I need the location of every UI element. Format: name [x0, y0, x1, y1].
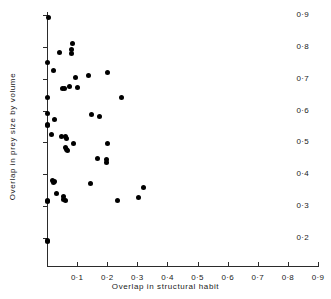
data-point [141, 185, 146, 190]
x-axis-tick-label: 0·6 [221, 273, 233, 282]
data-point [45, 123, 50, 128]
data-point [45, 60, 50, 65]
data-point [51, 180, 56, 185]
data-point [67, 84, 72, 89]
data-point [89, 112, 94, 117]
y-axis-tick [43, 47, 48, 48]
y-axis-tick-label: 0·8 [297, 42, 309, 51]
y-axis-title: Overlap in prey size by volume [8, 62, 17, 212]
y-axis-tick-label: 0·7 [297, 74, 309, 83]
x-axis-tick-label: 0·4 [161, 273, 173, 282]
x-axis-tick [167, 262, 168, 267]
data-point [45, 95, 50, 100]
data-point [97, 114, 102, 119]
data-point [52, 117, 57, 122]
data-point [86, 73, 91, 78]
data-point [49, 132, 54, 137]
y-axis-tick-label: 0·5 [297, 137, 309, 146]
x-axis-tick [198, 262, 199, 267]
x-axis-tick [228, 262, 229, 267]
data-point [65, 148, 70, 153]
y-axis-tick-label: 0·9 [297, 10, 309, 19]
data-point [57, 50, 62, 55]
y-axis-tick [43, 174, 48, 175]
data-point [88, 181, 93, 186]
data-point [119, 95, 124, 100]
data-point [45, 111, 50, 116]
data-point [54, 191, 59, 196]
y-axis-line [47, 12, 48, 267]
x-axis-tick-label: 0·5 [191, 273, 203, 282]
data-point [73, 75, 78, 80]
y-axis-tick-label: 0·2 [297, 233, 309, 242]
x-axis-tick-label: 0·2 [101, 273, 113, 282]
x-axis-line [47, 266, 318, 267]
x-axis-tick-label: 0·3 [131, 273, 143, 282]
x-axis-tick-label: 0·9 [312, 273, 324, 282]
data-point [105, 141, 110, 146]
y-axis-tick-label: 0·3 [297, 201, 309, 210]
x-axis-title: Overlap in structural habit [0, 282, 331, 291]
data-point [75, 85, 80, 90]
y-axis-tick [43, 142, 48, 143]
data-point [136, 195, 141, 200]
data-point [64, 136, 69, 141]
y-axis-tick-label: 0·6 [297, 106, 309, 115]
data-point [71, 141, 76, 146]
data-point [46, 15, 51, 20]
x-axis-tick [77, 262, 78, 267]
data-point [104, 160, 109, 165]
x-axis-tick-label: 0·1 [71, 273, 83, 282]
data-point [51, 68, 56, 73]
plot-area: 0·20·30·40·50·60·70·80·9 0·10·20·30·40·5… [47, 12, 318, 267]
data-point [115, 198, 120, 203]
data-point [95, 156, 100, 161]
data-point [69, 51, 74, 56]
x-axis-tick-label: 0·8 [282, 273, 294, 282]
x-axis-tick [258, 262, 259, 267]
y-axis-tick [43, 206, 48, 207]
x-axis-tick [288, 262, 289, 267]
data-point [70, 41, 75, 46]
x-axis-tick [318, 262, 319, 267]
x-axis-tick [137, 262, 138, 267]
data-point [45, 199, 50, 204]
scatter-plot-figure: 0·20·30·40·50·60·70·80·9 0·10·20·30·40·5… [0, 0, 331, 299]
y-axis-tick [43, 79, 48, 80]
data-point [45, 239, 50, 244]
data-point [105, 70, 110, 75]
x-axis-tick-label: 0·7 [252, 273, 264, 282]
x-axis-tick [107, 262, 108, 267]
y-axis-tick-label: 0·4 [297, 169, 309, 178]
